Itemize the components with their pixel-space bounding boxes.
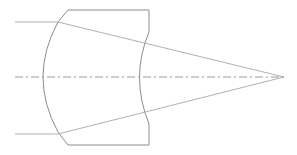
lens-diagram bbox=[0, 0, 297, 155]
